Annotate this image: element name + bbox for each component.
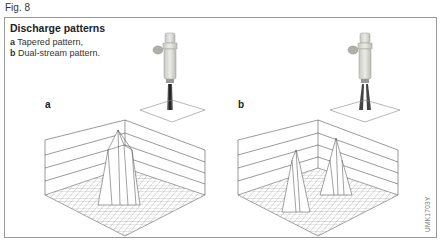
spray-stream-b1 (359, 84, 364, 110)
injector-b-icon (330, 33, 400, 122)
peak-a (98, 130, 140, 205)
distribution-plot-b (238, 120, 398, 236)
peak-b2 (320, 138, 352, 195)
injector-a-icon (140, 33, 205, 122)
spray-cone-a (167, 84, 173, 110)
distribution-plot-a (45, 120, 205, 236)
spray-stream-b2 (366, 84, 371, 110)
target-plate-b (330, 100, 400, 122)
diagram-graphics (0, 0, 443, 241)
